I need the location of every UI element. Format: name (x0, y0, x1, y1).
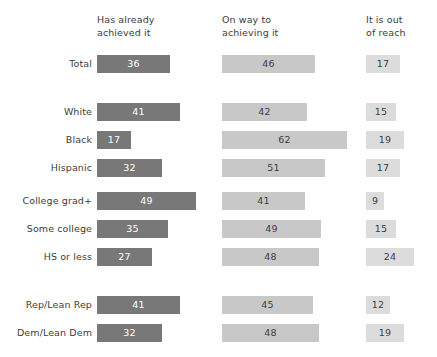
bar: 48 (222, 324, 319, 342)
bar: 41 (97, 103, 180, 121)
bar-value: 15 (375, 224, 388, 234)
bar-value: 27 (118, 252, 131, 262)
bar: 15 (366, 103, 396, 121)
row-label-3: Black (0, 131, 92, 149)
column-header-1: Has already achieved it (97, 14, 155, 39)
bar-value: 49 (140, 196, 153, 206)
bar: 35 (97, 220, 168, 238)
bar: 36 (97, 55, 170, 73)
bar: 12 (366, 296, 390, 314)
row-label-4: Hispanic (0, 159, 92, 177)
bar: 17 (366, 55, 400, 73)
bar-value: 19 (379, 328, 392, 338)
bar: 46 (222, 55, 315, 73)
bar-value: 46 (262, 59, 275, 69)
bar-value: 17 (108, 135, 121, 145)
bar: 45 (222, 296, 313, 314)
bar: 41 (97, 296, 180, 314)
bar-value: 45 (261, 300, 274, 310)
bar-value: 48 (264, 328, 277, 338)
bar-value: 49 (265, 224, 278, 234)
bar: 24 (366, 248, 414, 266)
bar: 17 (366, 159, 400, 177)
bar: 19 (366, 131, 404, 149)
bar-value: 19 (379, 135, 392, 145)
bar: 49 (222, 220, 321, 238)
row-label-6: Some college (0, 220, 92, 238)
row-label-9: Dem/Lean Dem (0, 324, 92, 342)
bar-value: 42 (258, 107, 271, 117)
bar-value: 9 (372, 196, 378, 206)
bar-value: 51 (267, 163, 280, 173)
bar-value: 41 (132, 300, 145, 310)
bar-value: 32 (123, 163, 136, 173)
bar: 42 (222, 103, 307, 121)
bar: 32 (97, 159, 162, 177)
grouped-bar-chart: Has already achieved itOn way to achievi… (0, 0, 437, 357)
bar-value: 17 (377, 59, 390, 69)
row-label-5: College grad+ (0, 192, 92, 210)
bar: 9 (366, 192, 384, 210)
bar-value: 41 (132, 107, 145, 117)
bar: 27 (97, 248, 152, 266)
bar-value: 35 (126, 224, 139, 234)
bar: 15 (366, 220, 396, 238)
row-label-1: Total (0, 55, 92, 73)
bar-value: 12 (372, 300, 385, 310)
bar-value: 48 (264, 252, 277, 262)
row-label-2: White (0, 103, 92, 121)
bar: 19 (366, 324, 404, 342)
bar: 49 (97, 192, 196, 210)
bar-value: 24 (384, 252, 397, 262)
bar-value: 62 (278, 135, 291, 145)
bar: 41 (222, 192, 305, 210)
bar: 17 (97, 131, 131, 149)
bar-value: 17 (377, 163, 390, 173)
bar: 32 (97, 324, 162, 342)
row-label-7: HS or less (0, 248, 92, 266)
bar-value: 36 (127, 59, 140, 69)
bar-value: 32 (123, 328, 136, 338)
bar-value: 41 (257, 196, 270, 206)
bar: 48 (222, 248, 319, 266)
row-label-8: Rep/Lean Rep (0, 296, 92, 314)
bar: 51 (222, 159, 325, 177)
column-header-3: It is out of reach (366, 14, 406, 39)
bar-value: 15 (375, 107, 388, 117)
column-header-2: On way to achieving it (222, 14, 278, 39)
bar: 62 (222, 131, 347, 149)
